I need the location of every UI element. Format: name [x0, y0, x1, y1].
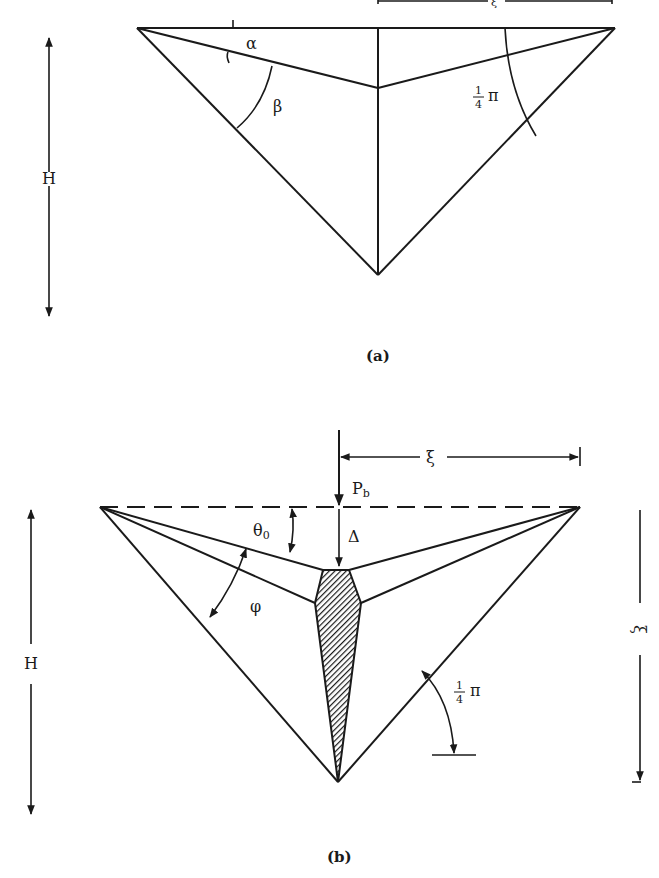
load-label: Pb: [352, 479, 370, 500]
alpha-label: α: [246, 34, 257, 53]
right-inner-line-a: [378, 28, 615, 88]
right-lower-line-b: [361, 507, 580, 603]
xi-dimension-right-b: ξ: [630, 510, 649, 782]
shaded-plastic-zone: [315, 570, 361, 782]
height-label-a: H: [42, 169, 56, 188]
height-dimension-b: H: [24, 510, 38, 814]
svg-text:π: π: [470, 681, 481, 700]
left-inner-line-a: [137, 28, 378, 88]
alpha-arc: [227, 52, 229, 63]
phi-label: φ: [250, 597, 261, 616]
beta-label: β: [273, 97, 282, 116]
svg-text:4: 4: [456, 693, 463, 706]
left-slope-a: [137, 28, 378, 275]
theta0-label: θ0: [253, 521, 270, 542]
xi-dimension-top-a: ξ: [378, 0, 612, 9]
diagram-canvas: ξ α β 1 4 π H (a: [0, 0, 659, 878]
left-slope-b: [100, 507, 338, 782]
quarter-pi-label-b: 1 4 π: [454, 679, 481, 706]
theta0-arc: [290, 509, 293, 552]
right-upper-line-b: [349, 507, 580, 570]
right-slope-b: [338, 507, 580, 782]
delta-label: Δ: [348, 527, 360, 546]
xi-label-top-b: ξ: [426, 448, 435, 467]
quarter-pi-label-a: 1 4 π: [473, 84, 499, 111]
right-slope-a: [378, 28, 615, 275]
height-dimension-a: H: [42, 38, 56, 316]
caption-b: (b): [327, 848, 352, 866]
svg-text:4: 4: [475, 98, 482, 111]
panel-b: Pb ξ Δ θ0 φ 1: [24, 430, 649, 866]
beta-arc: [237, 66, 272, 128]
svg-text:π: π: [488, 86, 499, 105]
svg-text:1: 1: [456, 679, 463, 692]
panel-a: ξ α β 1 4 π H (a: [42, 0, 615, 365]
height-label-b: H: [24, 654, 38, 673]
xi-label-right-b: ξ: [630, 625, 649, 634]
svg-text:1: 1: [475, 84, 482, 97]
xi-label-a: ξ: [491, 0, 497, 9]
left-upper-line-b: [100, 507, 323, 570]
left-lower-line-b: [100, 507, 315, 603]
caption-a: (a): [366, 347, 390, 365]
xi-dimension-top-b: ξ: [341, 447, 580, 467]
quarter-pi-arc-b: [422, 671, 454, 753]
quarter-pi-arc-a: [505, 28, 536, 136]
